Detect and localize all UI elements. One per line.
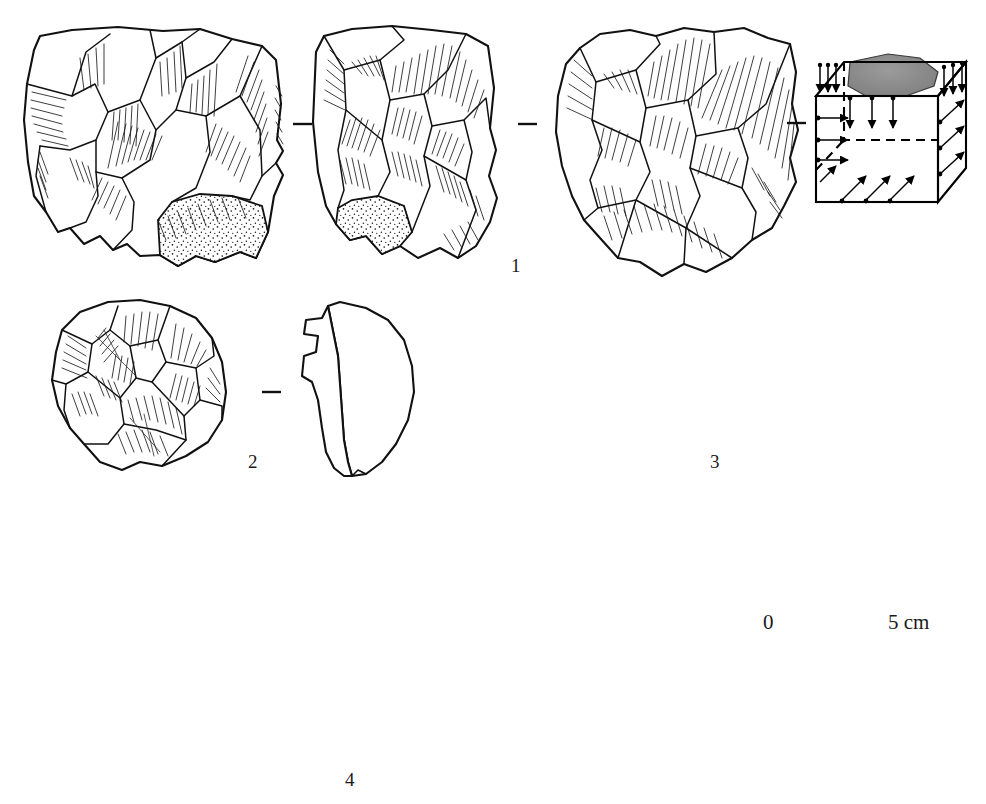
fig1-ventral-face-view: [556, 28, 798, 276]
shaded-scar-patch: [848, 54, 938, 96]
figure-2-group: [52, 300, 414, 476]
figure-label-3: 3: [710, 452, 720, 471]
flake-direction-arrows-right-face: [940, 100, 964, 174]
fig2-section-profile-view: [302, 302, 414, 476]
figure-1-group: [24, 26, 966, 276]
scale-start-label: 0: [763, 612, 774, 633]
cortex-area: [158, 194, 268, 266]
figure-label-1: 1: [511, 256, 521, 275]
fig2-dorsal-face-view: [52, 300, 226, 470]
illustration-plate: 1 2 3 4 0 5 cm: [0, 0, 986, 804]
cortex-area: [336, 196, 412, 254]
lithic-plate-canvas: [0, 0, 986, 804]
flake-direction-arrows-bottom: [842, 176, 914, 200]
flake-direction-arrow-corner: [820, 166, 836, 182]
figure-label-4: 4: [345, 770, 355, 789]
scale-end-label: 5 cm: [888, 612, 929, 633]
figure-label-2: 2: [248, 452, 258, 471]
fig1-dorsal-face-view: [24, 27, 283, 266]
fig1-schematic-cube-diagram: [816, 54, 966, 203]
fig1-lateral-face-view: [313, 26, 497, 258]
flake-direction-arrows-front-down: [850, 99, 893, 128]
